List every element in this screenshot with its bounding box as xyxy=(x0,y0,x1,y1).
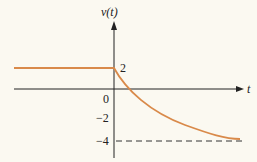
y-tick-2: 2 xyxy=(120,61,126,75)
chart: t v(t) 2 0 −2 −4 xyxy=(0,0,257,162)
y-tick-0: 0 xyxy=(103,92,109,106)
chart-background xyxy=(0,0,257,162)
y-axis-label: v(t) xyxy=(101,5,118,19)
y-tick-neg4: −4 xyxy=(96,134,109,148)
y-tick-neg2: −2 xyxy=(96,111,109,125)
